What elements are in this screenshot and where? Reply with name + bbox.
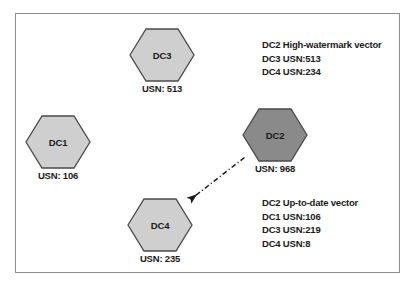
node-dc1[interactable]: DC1 — [26, 116, 90, 168]
annotation-high-watermark-vector: DC2 High-watermark vector DC3 USN:513 DC… — [262, 38, 382, 79]
node-label-dc4: DC4 — [151, 220, 171, 231]
node-label-dc3: DC3 — [153, 50, 172, 61]
usn-caption-dc4: USN: 235 — [131, 253, 189, 264]
node-dc4[interactable]: DC4 — [128, 199, 192, 251]
annotation-up-to-date-title: DC2 Up-to-date vector — [262, 196, 358, 210]
usn-caption-dc3: USN: 513 — [133, 83, 191, 94]
annotation-high-watermark-title: DC2 High-watermark vector — [262, 38, 382, 52]
annotation-up-to-date-line-1: DC1 USN:106 — [262, 210, 358, 224]
annotation-high-watermark-line-2: DC4 USN:234 — [262, 65, 382, 79]
connector-dc2-to-dc4 — [191, 158, 245, 200]
usn-caption-dc2: USN: 968 — [246, 163, 304, 174]
replication-diagram-figure: DC3 DC1 DC2 DC4 USN: 513 USN: 106 USN: 9… — [0, 0, 416, 288]
usn-caption-dc1: USN: 106 — [29, 170, 87, 181]
node-label-dc2: DC2 — [266, 130, 285, 141]
annotation-up-to-date-line-3: DC4 USN:8 — [262, 237, 358, 251]
node-dc3[interactable]: DC3 — [130, 29, 194, 81]
annotation-up-to-date-vector: DC2 Up-to-date vector DC1 USN:106 DC3 US… — [262, 196, 358, 250]
annotation-up-to-date-line-2: DC3 USN:219 — [262, 223, 358, 237]
node-label-dc1: DC1 — [49, 137, 69, 148]
annotation-high-watermark-line-1: DC3 USN:513 — [262, 52, 382, 66]
node-dc2[interactable]: DC2 — [243, 109, 307, 161]
